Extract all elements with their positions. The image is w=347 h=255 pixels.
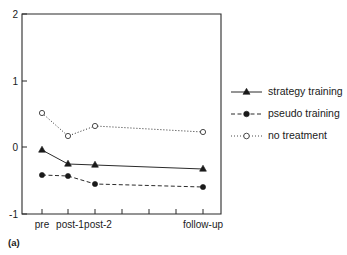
legend-label-pseudo-training: pseudo training: [268, 107, 340, 119]
plot-frame: [22, 14, 221, 214]
x-ticklabel-follow-up: follow-up: [183, 219, 223, 230]
x-ticklabel-pre: pre: [35, 219, 50, 230]
y-ticklabel-0: 0: [12, 142, 18, 153]
x-ticklabel-post-1: post-1: [56, 219, 84, 230]
y-ticklabel-1: 1: [12, 76, 18, 87]
series-strategy-training: [39, 146, 207, 171]
legend-item-strategy-training[interactable]: strategy training: [231, 85, 343, 97]
y-ticklabel-2: 2: [12, 9, 18, 20]
legend-item-pseudo-training[interactable]: pseudo training: [231, 107, 340, 119]
line-chart: 2 1 0 -1 pre post-1 post-2 follow-up: [0, 0, 347, 255]
legend-item-no-treatment[interactable]: no treatment: [231, 129, 327, 141]
chart-legend: strategy training pseudo training no tre…: [231, 85, 343, 141]
legend-marker-open-circle-icon: [244, 133, 250, 139]
point-pseudo-training-pre: [39, 172, 44, 177]
point-strategy-training-pre: [39, 146, 46, 152]
point-no-treatment-pre: [39, 110, 44, 115]
y-axis-ticks: [22, 14, 27, 214]
y-axis-labels: 2 1 0 -1: [9, 9, 18, 220]
x-axis-ticks: [42, 209, 203, 214]
panel-caption: (a): [8, 237, 20, 248]
y-ticklabel-minus-1: -1: [9, 209, 18, 220]
series-pseudo-training: [39, 172, 205, 189]
point-no-treatment-follow-up: [200, 129, 205, 134]
x-ticklabel-post-2: post-2: [84, 219, 112, 230]
point-no-treatment-post-2: [92, 123, 97, 128]
point-strategy-training-follow-up: [200, 165, 207, 171]
point-pseudo-training-follow-up: [200, 184, 205, 189]
legend-label-no-treatment: no treatment: [268, 129, 327, 141]
legend-marker-filled-triangle-icon: [243, 88, 250, 94]
point-pseudo-training-post-1: [65, 173, 70, 178]
x-axis-labels: pre post-1 post-2 follow-up: [35, 219, 224, 230]
point-strategy-training-post-2: [92, 161, 99, 167]
point-pseudo-training-post-2: [92, 181, 97, 186]
legend-marker-filled-circle-icon: [244, 111, 250, 117]
series-no-treatment-line: [42, 113, 203, 136]
point-no-treatment-post-1: [65, 133, 70, 138]
figure-panel: 2 1 0 -1 pre post-1 post-2 follow-up: [0, 0, 347, 255]
series-no-treatment: [39, 110, 205, 138]
axis-box: [22, 14, 221, 214]
legend-label-strategy-training: strategy training: [268, 85, 343, 97]
